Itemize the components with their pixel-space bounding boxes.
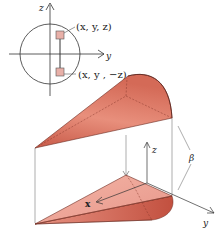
inset-z-label: z xyxy=(38,3,44,13)
main-y-label: y xyxy=(202,218,209,228)
diagram-canvas: z y (x, y, z) (x, y , −z) β z x y xyxy=(0,0,221,233)
upper-cone xyxy=(35,74,172,148)
beta-leader-upper xyxy=(178,126,190,150)
inset-y-label: y xyxy=(105,51,112,61)
beta-leader-lower xyxy=(178,164,191,190)
point-lower-marker xyxy=(56,68,64,76)
main-x-label: x xyxy=(85,199,91,209)
angle-beta-label: β xyxy=(188,153,194,163)
point-upper-label: (x, y, z) xyxy=(76,21,112,32)
main-z-label: z xyxy=(151,145,157,155)
point-upper-marker xyxy=(56,31,64,39)
cross-section-inset: z y (x, y, z) (x, y , −z) xyxy=(9,3,127,96)
point-lower-label: (x, y , −z) xyxy=(78,69,127,80)
leader-upper xyxy=(64,27,75,33)
